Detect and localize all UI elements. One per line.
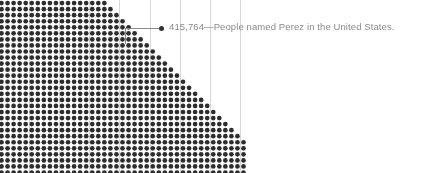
callout-description: People named Perez in the United States. — [214, 21, 395, 32]
dot-density-chart-figure: 415,764—People named Perez in the United… — [0, 0, 427, 173]
callout-row: 415,764—People named Perez in the United… — [159, 21, 417, 34]
callout-separator: — — [204, 21, 214, 32]
callout-annotation[interactable]: 415,764—People named Perez in the United… — [159, 21, 417, 34]
callout-dot-icon — [159, 26, 164, 31]
callout-value: 415,764 — [169, 21, 204, 32]
callout-text: 415,764—People named Perez in the United… — [169, 21, 417, 34]
